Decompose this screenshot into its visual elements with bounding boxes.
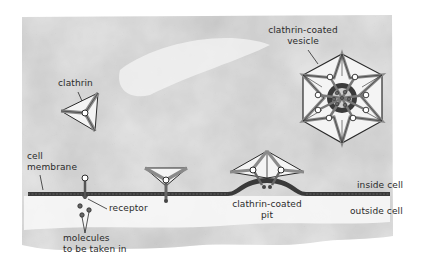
- label-inside-cell: inside cell: [357, 180, 403, 191]
- label-outside-cell: outside cell: [350, 206, 403, 217]
- label-vesicle-line1: clathrin-coated: [266, 25, 340, 36]
- label-molecules: molecules to be taken in: [63, 233, 127, 255]
- label-cell-membrane-line2: membrane: [27, 162, 77, 173]
- label-clathrin-coated-pit: clathrin-coated pit: [228, 199, 306, 221]
- label-cell-membrane-line1: cell: [27, 151, 77, 162]
- diagram-canvas: [0, 0, 425, 264]
- label-molecules-line2: to be taken in: [63, 244, 127, 255]
- label-molecules-line1: molecules: [63, 233, 127, 244]
- endocytosis-diagram: clathrin clathrin-coated vesicle cell me…: [0, 0, 425, 264]
- label-clathrin: clathrin: [58, 78, 93, 89]
- label-vesicle-line2: vesicle: [266, 36, 340, 47]
- label-pit-line1: clathrin-coated: [228, 199, 306, 210]
- label-pit-line2: pit: [228, 210, 306, 221]
- label-clathrin-coated-vesicle: clathrin-coated vesicle: [266, 25, 340, 47]
- label-cell-membrane: cell membrane: [27, 151, 77, 173]
- label-receptor: receptor: [109, 203, 148, 214]
